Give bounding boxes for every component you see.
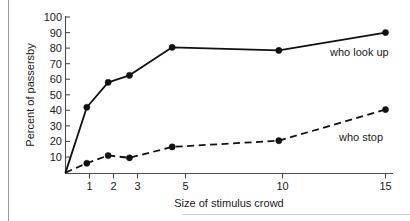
x-tick-marks [90,174,386,179]
data-point-marker [382,29,388,35]
data-point-marker [382,106,388,112]
x-tick-labels: 1 2 3 5 10 15 [86,180,391,192]
x-tick-label: 2 [110,180,116,192]
x-tick-label: 5 [182,180,188,192]
y-tick-label: 10 [50,151,62,163]
y-tick-label: 80 [50,42,62,54]
data-point-marker [169,44,175,50]
x-tick-label: 1 [86,180,92,192]
data-point-marker [276,47,282,53]
y-axis-title: Percent of passersby [24,43,36,147]
data-point-marker [105,79,111,85]
x-tick-label: 3 [134,180,140,192]
y-tick-label: 90 [50,27,62,39]
series-markers-solid [84,29,389,110]
data-point-marker [105,152,111,158]
y-tick-label: 40 [50,104,62,116]
data-point-marker [126,155,132,161]
y-tick-label: 100 [44,11,62,23]
data-point-marker [84,160,90,166]
data-point-marker [126,72,132,78]
data-point-marker [276,138,282,144]
y-tick-label: 30 [50,120,62,132]
y-tick-marks [66,17,71,157]
line-chart: Percent of passersby 100 90 80 70 60 50 [0,0,410,221]
x-tick-label: 15 [379,180,391,192]
y-tick-label: 20 [50,135,62,147]
data-point-marker [84,104,90,110]
series-label-stop: who stop [338,131,383,143]
y-tick-label: 50 [50,89,62,101]
y-tick-labels: 100 90 80 70 60 50 40 30 20 10 [44,11,62,163]
series-line-dashed [66,110,386,173]
x-tick-label: 10 [276,180,288,192]
figure-container: Percent of passersby 100 90 80 70 60 50 [0,0,410,221]
y-tick-label: 70 [50,58,62,70]
x-axis-title: Size of stimulus crowd [174,197,283,209]
y-tick-label: 60 [50,73,62,85]
data-point-marker [169,144,175,150]
series-label-look-up: who look up [329,46,389,58]
